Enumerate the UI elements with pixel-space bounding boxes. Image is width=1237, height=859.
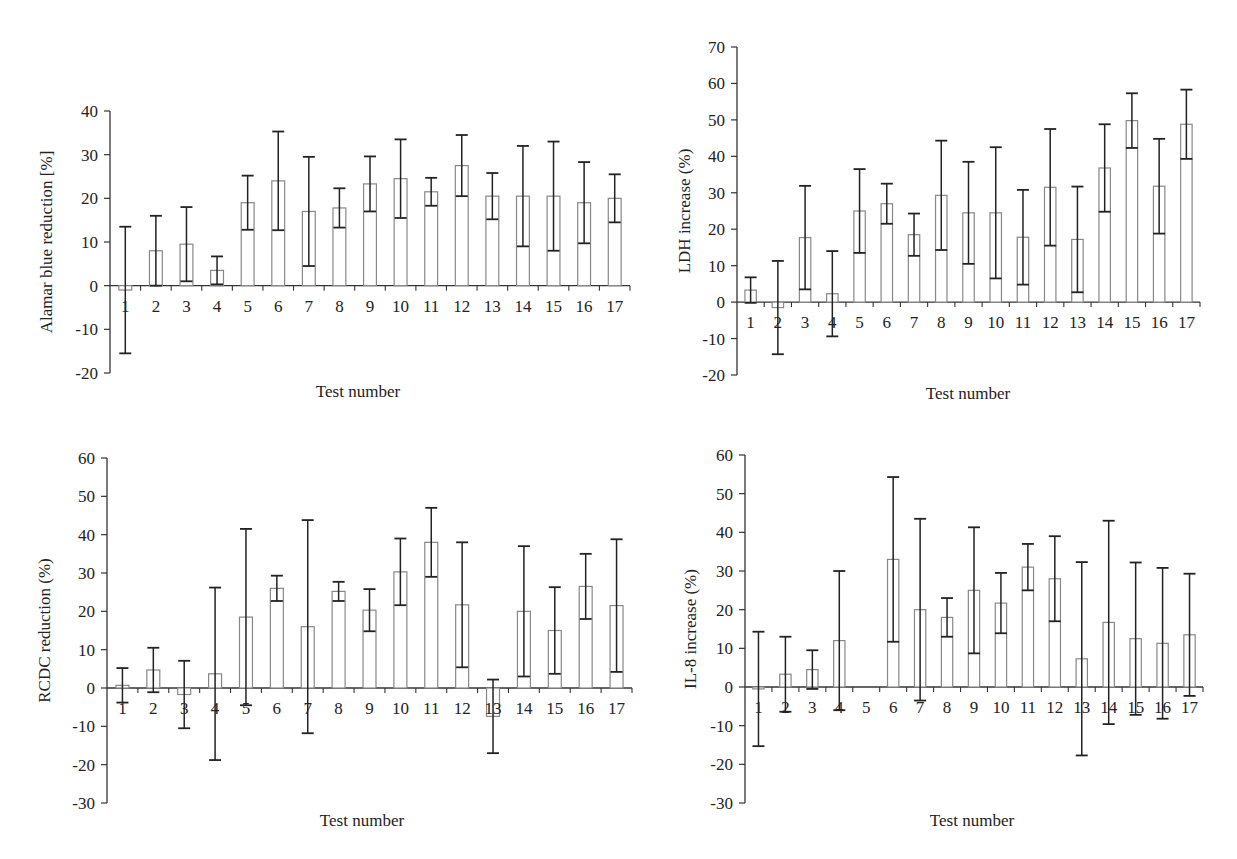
y-tick-label: 0	[725, 678, 734, 697]
y-tick-label: -10	[710, 717, 733, 736]
y-tick-label: 20	[708, 220, 725, 239]
x-tick-label: 5	[862, 698, 871, 717]
y-tick-label: 40	[708, 147, 725, 166]
x-tick-label: 14	[1096, 313, 1114, 332]
y-tick-label: 0	[87, 679, 96, 698]
x-tick-label: 1	[118, 699, 127, 718]
y-axis-title: RCDC reduction (%)	[35, 558, 54, 702]
chart-2: -30-20-100102030405060123456789101112131…	[35, 449, 632, 830]
x-tick-label: 7	[305, 297, 314, 316]
x-tick-label: 16	[577, 699, 594, 718]
y-axis-title: LDH increase (%)	[675, 149, 694, 274]
x-tick-label: 17	[608, 699, 626, 718]
y-tick-label: 0	[717, 293, 726, 312]
x-tick-label: 2	[152, 297, 161, 316]
x-tick-label: 1	[121, 297, 130, 316]
x-tick-label: 9	[964, 313, 973, 332]
chart-3: -30-20-100102030405060123456789101112131…	[681, 446, 1203, 830]
x-tick-label: 1	[754, 698, 763, 717]
x-tick-label: 4	[211, 699, 220, 718]
x-tick-label: 5	[243, 297, 252, 316]
x-tick-label: 15	[546, 699, 563, 718]
x-tick-label: 3	[808, 698, 817, 717]
x-tick-label: 10	[392, 699, 409, 718]
y-tick-label: 60	[78, 449, 95, 468]
x-tick-label: 12	[1046, 698, 1063, 717]
x-tick-label: 17	[606, 297, 624, 316]
x-tick-label: 17	[1181, 698, 1199, 717]
y-tick-label: -20	[702, 366, 725, 385]
x-tick-label: 14	[514, 297, 532, 316]
y-tick-label: -20	[75, 364, 98, 383]
x-tick-label: 12	[454, 699, 471, 718]
x-tick-label: 7	[910, 313, 919, 332]
x-tick-label: 4	[828, 313, 837, 332]
x-tick-label: 9	[970, 698, 979, 717]
bar	[270, 588, 283, 688]
y-tick-label: -10	[72, 717, 95, 736]
y-tick-label: 50	[716, 485, 733, 504]
y-tick-label: -10	[75, 320, 98, 339]
x-tick-label: 15	[1123, 313, 1140, 332]
y-tick-label: -20	[72, 756, 95, 775]
x-tick-label: 1	[746, 313, 755, 332]
x-tick-label: 3	[801, 313, 810, 332]
x-tick-label: 2	[149, 699, 158, 718]
x-tick-label: 8	[334, 699, 343, 718]
x-tick-label: 17	[1178, 313, 1196, 332]
y-tick-label: -30	[710, 794, 733, 813]
x-tick-label: 3	[182, 297, 191, 316]
x-tick-label: 12	[1042, 313, 1059, 332]
y-tick-label: 20	[78, 602, 95, 621]
y-tick-label: 10	[708, 257, 725, 276]
y-tick-label: 10	[81, 233, 98, 252]
y-tick-label: 40	[78, 526, 95, 545]
x-tick-label: 3	[180, 699, 189, 718]
x-tick-label: 13	[485, 699, 502, 718]
x-axis-title: Test number	[320, 811, 405, 830]
x-tick-label: 15	[1127, 698, 1144, 717]
y-tick-label: -10	[702, 330, 725, 349]
y-tick-label: 60	[708, 74, 725, 93]
x-tick-label: 6	[273, 699, 282, 718]
x-tick-label: 10	[992, 698, 1009, 717]
x-axis-title: Test number	[930, 811, 1015, 830]
x-tick-label: 14	[1100, 698, 1118, 717]
x-tick-label: 4	[835, 698, 844, 717]
x-tick-label: 9	[366, 297, 375, 316]
x-tick-label: 12	[453, 297, 470, 316]
y-tick-label: 30	[716, 562, 733, 581]
y-tick-label: 0	[90, 277, 99, 296]
x-tick-label: 11	[1015, 313, 1031, 332]
x-tick-label: 7	[303, 699, 312, 718]
y-tick-label: 20	[81, 189, 98, 208]
x-tick-label: 8	[335, 297, 344, 316]
x-tick-label: 16	[1151, 313, 1168, 332]
x-tick-label: 13	[1069, 313, 1086, 332]
chart-1: -20-100102030405060701234567891011121314…	[675, 38, 1200, 403]
y-axis-title: IL-8 increase (%)	[681, 569, 700, 689]
x-tick-label: 11	[1020, 698, 1036, 717]
y-tick-label: -30	[72, 794, 95, 813]
y-tick-label: 60	[716, 446, 733, 465]
y-tick-label: 30	[708, 184, 725, 203]
x-axis-title: Test number	[316, 382, 401, 401]
y-tick-label: 30	[78, 564, 95, 583]
x-tick-label: 5	[242, 699, 251, 718]
y-tick-label: 40	[81, 102, 98, 121]
x-tick-label: 14	[515, 699, 533, 718]
bar	[332, 591, 345, 688]
y-tick-label: 40	[716, 523, 733, 542]
y-tick-label: 50	[708, 111, 725, 130]
x-tick-label: 10	[392, 297, 409, 316]
x-tick-label: 16	[576, 297, 593, 316]
x-tick-label: 2	[774, 313, 783, 332]
y-tick-label: -20	[710, 755, 733, 774]
chart-0: -20-100102030401234567891011121314151617…	[37, 102, 630, 401]
x-tick-label: 11	[423, 699, 439, 718]
x-tick-label: 8	[937, 313, 946, 332]
y-tick-label: 70	[708, 38, 725, 57]
x-tick-label: 2	[781, 698, 790, 717]
x-tick-label: 9	[365, 699, 374, 718]
x-tick-label: 6	[274, 297, 283, 316]
